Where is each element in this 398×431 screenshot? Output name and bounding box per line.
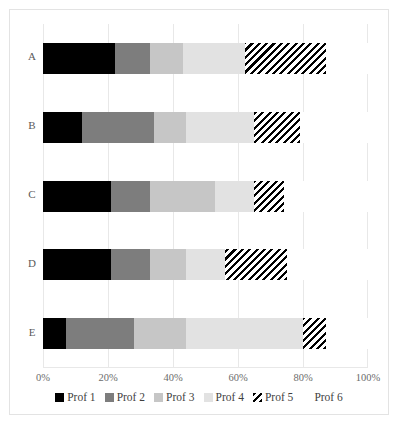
- legend-swatch-icon: [204, 393, 213, 402]
- legend-swatch-icon: [302, 393, 311, 402]
- bar-segment[interactable]: [43, 249, 111, 280]
- bar-segment[interactable]: [254, 112, 300, 143]
- bar-segment[interactable]: [303, 318, 326, 349]
- chart-container: ABCDE 0%20%40%60%80%100% Prof 1Prof 2Pro…: [9, 9, 389, 415]
- bar-row: [43, 318, 368, 349]
- legend-label: Prof 1: [67, 391, 95, 403]
- bar-segment[interactable]: [186, 249, 225, 280]
- bar-segment[interactable]: [154, 112, 187, 143]
- legend-label: Prof 5: [265, 391, 293, 403]
- y-axis-label-a: A: [22, 50, 42, 62]
- y-axis-label-d: D: [22, 257, 42, 269]
- legend-item[interactable]: Prof 2: [105, 391, 145, 403]
- legend-swatch-icon: [55, 393, 64, 402]
- plot-area: [43, 24, 368, 368]
- legend-item[interactable]: Prof 5: [253, 391, 293, 403]
- bar-segment[interactable]: [300, 112, 368, 143]
- legend-swatch-icon: [105, 393, 114, 402]
- bar-segment[interactable]: [111, 249, 150, 280]
- x-tick-label: 60%: [215, 372, 261, 383]
- bar-segment[interactable]: [134, 318, 186, 349]
- y-axis-label-c: C: [22, 188, 42, 200]
- legend-item[interactable]: Prof 1: [55, 391, 95, 403]
- bar-segment[interactable]: [326, 318, 368, 349]
- x-tick-label: 80%: [280, 372, 326, 383]
- bar-segment[interactable]: [150, 181, 215, 212]
- bar-segment[interactable]: [82, 112, 154, 143]
- x-tick-label: 100%: [345, 372, 391, 383]
- legend-label: Prof 2: [117, 391, 145, 403]
- bar-segment[interactable]: [43, 112, 82, 143]
- legend-swatch-icon: [253, 393, 262, 402]
- chart-legend: Prof 1Prof 2Prof 3Prof 4Prof 5Prof 6: [10, 391, 388, 403]
- bar-segment[interactable]: [245, 43, 326, 74]
- bar-segment[interactable]: [150, 43, 183, 74]
- bar-segment[interactable]: [284, 181, 369, 212]
- legend-label: Prof 4: [216, 391, 244, 403]
- bar-segment[interactable]: [186, 112, 254, 143]
- bar-row: [43, 43, 368, 74]
- bar-segment[interactable]: [225, 249, 287, 280]
- bar-track: [43, 43, 368, 74]
- bar-row: [43, 249, 368, 280]
- x-tick-label: 20%: [85, 372, 131, 383]
- legend-label: Prof 6: [314, 391, 342, 403]
- y-axis-label-b: B: [22, 119, 42, 131]
- bar-segment[interactable]: [43, 43, 115, 74]
- legend-label: Prof 3: [166, 391, 194, 403]
- bar-segment[interactable]: [183, 43, 245, 74]
- bar-segment[interactable]: [186, 318, 303, 349]
- bar-segment[interactable]: [215, 181, 254, 212]
- bar-segment[interactable]: [43, 318, 66, 349]
- bar-segment[interactable]: [115, 43, 151, 74]
- legend-swatch-icon: [154, 393, 163, 402]
- x-tick-label: 0%: [20, 372, 66, 383]
- y-axis-label-e: E: [22, 326, 42, 338]
- bar-segment[interactable]: [326, 43, 368, 74]
- bar-row: [43, 181, 368, 212]
- bar-track: [43, 181, 368, 212]
- x-axis-line: [43, 367, 368, 368]
- bar-segment[interactable]: [150, 249, 186, 280]
- legend-item[interactable]: Prof 6: [302, 391, 342, 403]
- bar-segment[interactable]: [43, 181, 111, 212]
- bar-segment[interactable]: [254, 181, 283, 212]
- bar-track: [43, 112, 368, 143]
- bar-track: [43, 318, 368, 349]
- bar-segment[interactable]: [111, 181, 150, 212]
- bar-segment[interactable]: [66, 318, 134, 349]
- bar-row: [43, 112, 368, 143]
- legend-item[interactable]: Prof 4: [204, 391, 244, 403]
- legend-item[interactable]: Prof 3: [154, 391, 194, 403]
- bar-segment[interactable]: [287, 249, 368, 280]
- bar-track: [43, 249, 368, 280]
- x-tick-label: 40%: [150, 372, 196, 383]
